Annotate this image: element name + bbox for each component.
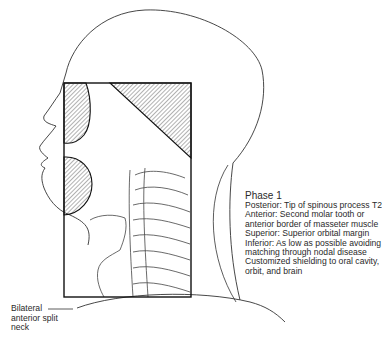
brain-shield bbox=[110, 83, 191, 158]
head-outline bbox=[66, 10, 264, 300]
orbit-shield bbox=[64, 83, 90, 143]
cervical-spine bbox=[90, 168, 190, 297]
phase-caption: Phase 1 Posterior: Tip of spinous proces… bbox=[245, 190, 382, 276]
back-neck-outline bbox=[213, 165, 236, 302]
oral-cavity-shield bbox=[64, 157, 92, 215]
neck-field-label: Bilateral anterior split neck bbox=[11, 304, 58, 333]
label-line: neck bbox=[11, 323, 58, 333]
shoulder-outline bbox=[77, 294, 285, 322]
caption-line: orbit, and brain bbox=[245, 267, 382, 276]
